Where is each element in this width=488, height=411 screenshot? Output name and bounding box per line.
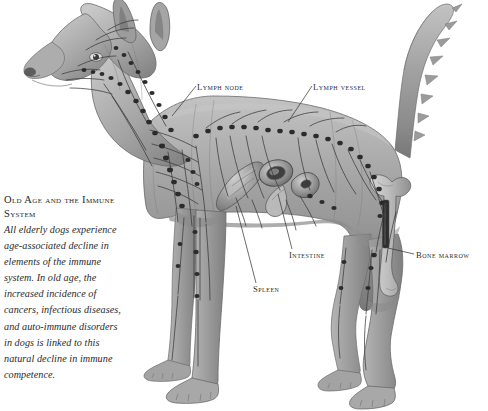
front-legs [144,208,226,403]
caption-heading: Old Age and the Immune System [4,193,126,220]
tail [395,4,462,158]
label-lymph-vessel: Lymph vessel [313,82,366,92]
caption-block: Old Age and the Immune System All elderl… [4,193,126,383]
illustration-figure: Old Age and the Immune System All elderl… [0,0,488,411]
caption-paragraph: All elderly dogs experience age-associat… [4,222,126,383]
label-spleen: Spleen [253,284,279,294]
dog-head [24,0,190,166]
leader-spleen [236,206,256,283]
label-bone-marrow: Bone marrow [416,250,469,260]
label-lymph-node: Lymph node [197,82,243,92]
label-intestine: Intestine [289,250,325,260]
